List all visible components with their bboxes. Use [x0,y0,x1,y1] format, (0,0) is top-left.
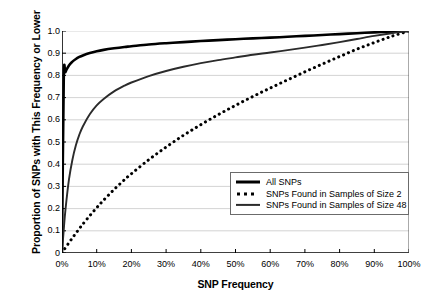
x-axis-title: SNP Frequency [62,278,409,290]
y-axis-tick-label: 0.4 [34,160,60,169]
legend-item-size-2: SNPs Found in Samples of Size 2 [235,188,404,199]
legend-label: SNPs Found in Samples of Size 2 [266,189,402,199]
legend-item-all-snps: All SNPs [235,177,404,188]
legend-line-swatch-solid-thick [235,177,261,188]
legend-line-swatch-dotted [235,188,261,199]
legend-line-swatch-solid-thin [235,200,261,211]
legend-label: All SNPs [266,177,302,187]
chart-figure: Proportion of SNPs with This Frequency o… [0,0,439,303]
x-axis-tick-label: 100% [389,259,429,269]
y-axis-tick-label: 0.8 [34,71,60,80]
y-axis-tick-label: 0.2 [34,204,60,213]
y-axis-tick-label: 1.0 [34,27,60,36]
y-axis-tick-label: 0.7 [34,93,60,102]
y-axis-tick-label: 0 [34,249,60,258]
plot-svg [62,31,409,253]
legend-label: SNPs Found in Samples of Size 48 [266,200,407,210]
y-axis-tick-label: 0.6 [34,115,60,124]
y-axis-tick-label: 0.9 [34,49,60,58]
plot-area [62,31,409,253]
legend-item-size-48: SNPs Found in Samples of Size 48 [235,200,404,211]
y-axis-tick-label: 0.1 [34,226,60,235]
chart-legend: All SNPs SNPs Found in Samples of Size 2… [230,172,409,215]
y-axis-tick-label: 0.3 [34,182,60,191]
y-axis-tick-label: 0.5 [34,138,60,147]
y-axis-tick-labels: 00.10.20.30.40.50.60.70.80.91.0 [30,0,60,303]
